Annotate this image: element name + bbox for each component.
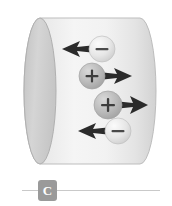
minus-sign-icon xyxy=(112,130,125,132)
plus-sign-vertical-icon xyxy=(91,70,93,83)
cylindrical-conductor xyxy=(24,18,156,164)
charged-particles-cylinder-figure xyxy=(0,0,172,206)
minus-sign-icon xyxy=(96,48,109,50)
cylinder-left-cap xyxy=(24,18,56,164)
caption-badge-c: C xyxy=(38,180,57,201)
plus-sign-vertical-icon xyxy=(107,98,109,112)
